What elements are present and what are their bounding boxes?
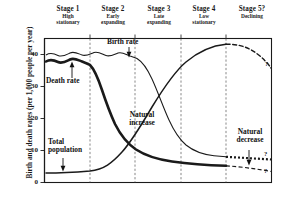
- natural-decrease-label: Natural decrease: [227, 128, 273, 144]
- total-population-label: Total population: [48, 138, 96, 154]
- stage-header-4: Stage 4 Low stationary: [181, 6, 227, 25]
- stage-header-2: Stage 2 Early expanding: [90, 6, 136, 25]
- y-axis-label: Birth and death rates (per 1,000 people …: [25, 18, 34, 188]
- demographic-transition-figure: Birth and death rates (per 1,000 people …: [0, 0, 286, 203]
- y-tick-20: 20: [24, 114, 38, 122]
- y-tick-30: 30: [24, 82, 38, 90]
- chart-canvas: [0, 0, 286, 203]
- stage-1-sub2: stationary: [45, 20, 91, 25]
- stage-5-sub1: Declining: [227, 14, 277, 19]
- stage-header-3: Stage 3 Late expanding: [136, 6, 182, 25]
- total-population-label-line2: population: [48, 145, 82, 154]
- death-rate-label: Death rate: [46, 77, 79, 85]
- question-mark-death: ?: [264, 167, 267, 174]
- stage-4-sub2: stationary: [181, 20, 227, 25]
- stage-3-sub2: expanding: [136, 20, 182, 25]
- question-mark-birth: ?: [264, 150, 267, 157]
- natural-increase-label-line2: increase: [129, 118, 155, 127]
- y-tick-40: 40: [24, 50, 38, 58]
- natural-decrease-label-line2: decrease: [237, 135, 264, 144]
- y-tick-0: 0: [24, 178, 38, 186]
- stage-header-1: Stage 1 High stationary: [45, 6, 91, 25]
- stage-header-5: Stage 5? Declining: [227, 6, 277, 19]
- question-mark-population: ?: [265, 60, 268, 67]
- y-tick-10: 10: [24, 146, 38, 154]
- stage-2-sub2: expanding: [90, 20, 136, 25]
- natural-increase-label: Natural increase: [119, 111, 165, 127]
- birth-rate-label: Birth rate: [107, 38, 138, 46]
